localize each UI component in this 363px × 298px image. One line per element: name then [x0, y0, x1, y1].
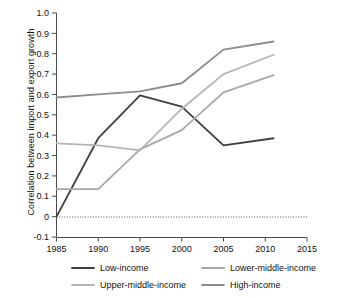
x-tick-label: 1995 — [130, 244, 150, 254]
y-tick-label: 0.7 — [36, 69, 49, 79]
x-tick-label: 1985 — [46, 244, 66, 254]
x-tick-label: 2010 — [255, 244, 275, 254]
chart-figure: Correlation between import and export gr… — [0, 0, 363, 298]
y-tick-label: 0.1 — [36, 191, 49, 201]
data-series-group — [57, 42, 274, 217]
y-tick-label: 0.2 — [36, 171, 49, 181]
line-chart-canvas: -0.100.10.20.30.40.50.60.70.80.91.0 1985… — [0, 0, 363, 298]
chart-legend: Low-incomeLower-middle-incomeUpper-middl… — [72, 263, 316, 290]
y-tick-label: 0 — [44, 212, 49, 222]
y-tick-label: 0.5 — [36, 110, 49, 120]
y-tick-label: 1.0 — [36, 8, 49, 18]
x-tick-label: 2015 — [297, 244, 317, 254]
x-axis-ticks: 1985199019952000200520102015 — [46, 238, 317, 255]
series-line-low-income — [57, 95, 274, 216]
legend-label-lower-middle-income: Lower-middle-income — [230, 263, 316, 273]
legend-label-high-income: High-income — [230, 280, 281, 290]
y-tick-label: 0.8 — [36, 49, 49, 59]
y-axis-ticks: -0.100.10.20.30.40.50.60.70.80.91.0 — [33, 8, 56, 242]
y-tick-label: 0.3 — [36, 151, 49, 161]
legend-label-upper-middle-income: Upper-middle-income — [100, 280, 186, 290]
series-line-high-income — [57, 42, 274, 98]
x-tick-label: 2005 — [213, 244, 233, 254]
x-tick-label: 1990 — [88, 244, 108, 254]
y-tick-label: 0.6 — [36, 90, 49, 100]
y-tick-label: 0.4 — [36, 130, 49, 140]
x-tick-label: 2000 — [172, 244, 192, 254]
y-tick-label: 0.9 — [36, 29, 49, 39]
y-tick-label: -0.1 — [33, 232, 49, 242]
series-line-lower-middle-income — [57, 75, 274, 189]
legend-label-low-income: Low-income — [100, 263, 149, 273]
